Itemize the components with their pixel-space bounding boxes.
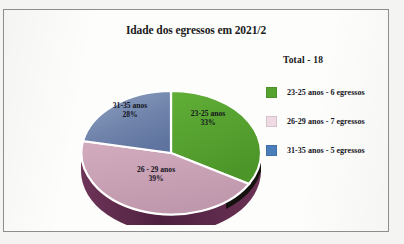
pie-label-26-29-name: 26 - 29 anos [137,165,175,174]
pie-label-23-25-name: 23-25 anos [191,109,225,118]
legend-item-26-29: 26-29 anos - 7 egressos [266,116,389,127]
pie-label-23-25: 23-25 anos 33% [172,109,244,128]
chart-frame: Idade dos egressos em 2021/2 [3,9,389,232]
pie-label-26-29-percent: 39% [148,174,163,183]
legend-swatch-blue [266,145,277,156]
chart-title: Idade dos egressos em 2021/2 [4,24,388,36]
legend-label-23-25: 23-25 anos - 6 egressos [287,88,365,97]
pie-chart-svg [76,65,266,225]
pie-label-31-35: 31-35 anos 28% [94,101,166,120]
pie-label-26-29: 26 - 29 anos 39% [114,165,198,184]
pie-label-31-35-percent: 28% [122,110,137,119]
legend-total-label: Total - 18 [283,55,389,65]
legend-swatch-green [266,87,277,98]
legend-item-31-35: 31-35 anos - 5 egressos [266,145,389,156]
legend-label-26-29: 26-29 anos - 7 egressos [287,117,365,126]
pie-label-31-35-name: 31-35 anos [113,101,147,110]
legend-label-31-35: 31-35 anos - 5 egressos [287,146,365,155]
legend-item-23-25: 23-25 anos - 6 egressos [266,87,389,98]
legend-swatch-pink [266,116,277,127]
pie-label-23-25-percent: 33% [200,118,215,127]
scanned-page: Idade dos egressos em 2021/2 [0,0,404,244]
pie-chart: 23-25 anos 33% 31-35 anos 28% 26 - 29 an… [76,65,266,225]
chart-legend: Total - 18 23-25 anos - 6 egressos 26-29… [266,55,389,174]
